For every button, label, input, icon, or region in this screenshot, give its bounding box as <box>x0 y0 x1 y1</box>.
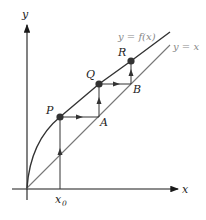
label-R: R <box>117 46 126 59</box>
x0-vertical-segment <box>58 117 63 189</box>
point-R <box>127 57 134 64</box>
identity-label: y = x <box>172 41 199 52</box>
label-P: P <box>45 104 54 117</box>
x0-subscript: 0 <box>62 199 67 208</box>
x0-base: x <box>55 193 62 206</box>
point-P <box>56 113 63 120</box>
label-B: B <box>132 83 141 96</box>
x-axis-label: x <box>182 183 189 196</box>
label-A: A <box>99 116 108 129</box>
segment-P-A <box>60 115 99 120</box>
segment-Q-B <box>99 82 131 87</box>
label-Q: Q <box>86 68 95 81</box>
x0-tick-label: x 0 <box>55 193 67 208</box>
cobweb-diagram: x y y = x y = f(x) P Q R A B x 0 <box>0 0 206 220</box>
y-axis-label: y <box>21 8 29 21</box>
f-curve-label: y = f(x) <box>117 31 156 42</box>
point-Q <box>95 80 102 87</box>
segment-A-Q <box>97 84 102 117</box>
